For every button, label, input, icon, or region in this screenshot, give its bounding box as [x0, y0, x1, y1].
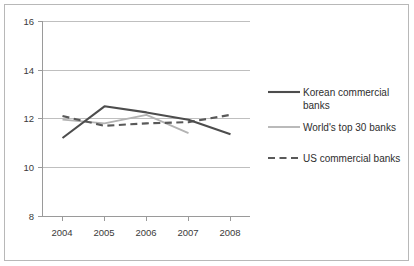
x-axis-tick-labels: 2004 2005 2006 2007 2008	[51, 227, 240, 238]
chart-legend: Korean commercial banks World's top 30 b…	[268, 87, 400, 164]
line-chart: 16 14 12 10 8 2004 2005 2006 2007 2008 K…	[0, 0, 414, 266]
legend-label-worlds-top-30-banks: World's top 30 banks	[303, 122, 396, 133]
xtick-label-2006: 2006	[135, 227, 156, 238]
legend-label-us-commercial-banks: US commercial banks	[303, 153, 400, 164]
xtick-label-2008: 2008	[219, 227, 240, 238]
gridlines	[42, 22, 250, 168]
xtick-label-2005: 2005	[93, 227, 114, 238]
xtick-label-2004: 2004	[51, 227, 72, 238]
ytick-label-8: 8	[29, 211, 34, 222]
ytick-label-16: 16	[23, 16, 34, 27]
data-series	[63, 106, 231, 138]
xtick-label-2007: 2007	[177, 227, 198, 238]
y-axis-tick-labels: 16 14 12 10 8	[23, 16, 34, 222]
ytick-label-14: 14	[23, 65, 34, 76]
ytick-label-12: 12	[23, 113, 34, 124]
legend-label-korean-commercial-banks-line1: Korean commercial	[303, 87, 389, 98]
legend-label-korean-commercial-banks-line2: banks	[303, 100, 330, 111]
ytick-label-10: 10	[23, 162, 34, 173]
chart-figure: 16 14 12 10 8 2004 2005 2006 2007 2008 K…	[0, 0, 414, 266]
series-line-us-commercial-banks	[63, 115, 231, 126]
